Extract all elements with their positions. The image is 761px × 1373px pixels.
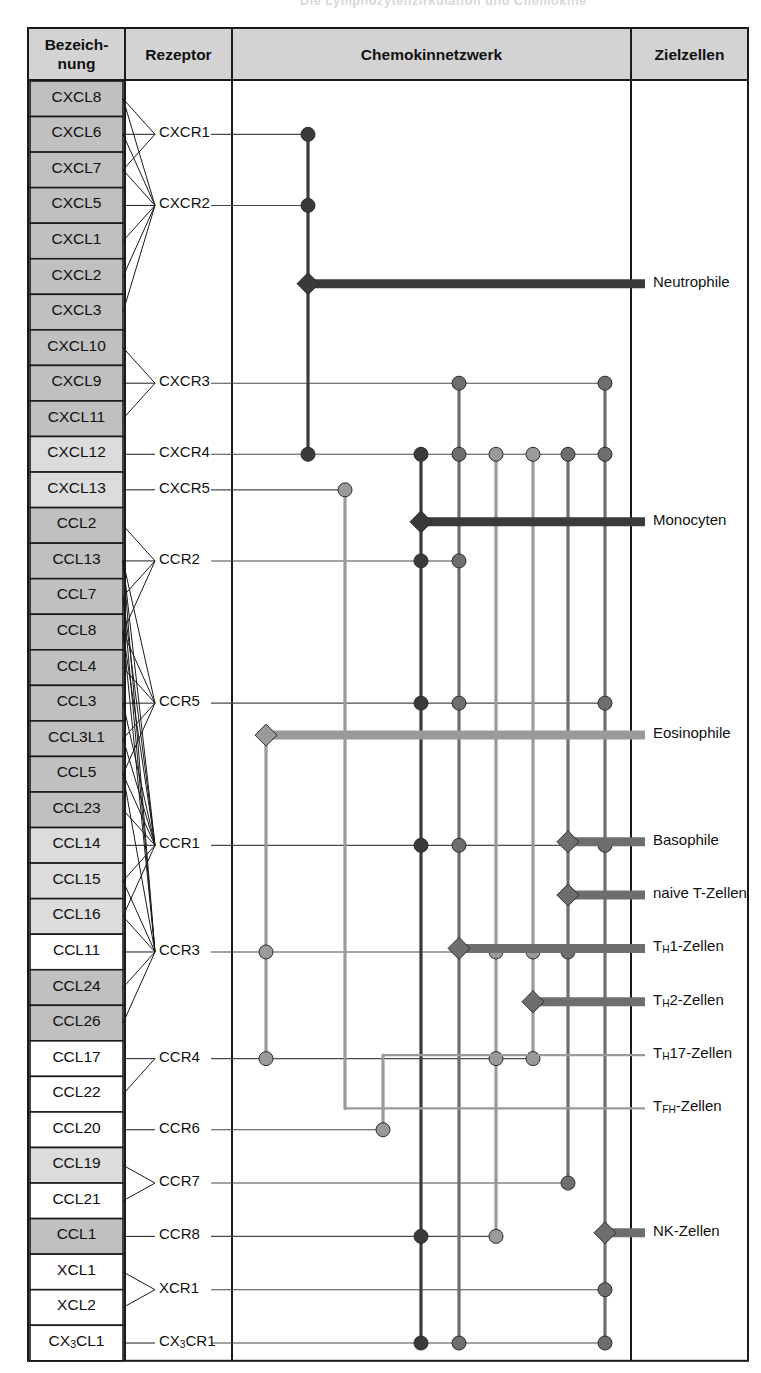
ligand-receptor-link	[123, 1165, 155, 1183]
receptor-label-CXCR2: CXCR2	[159, 194, 210, 211]
target-cell-label-TFH-Zellen: TFH-Zellen	[653, 1097, 722, 1115]
target-cell-label-naive T-Zellen: naive T-Zellen	[653, 884, 747, 901]
receptor-label-CXCR1: CXCR1	[159, 123, 210, 140]
network-node	[598, 447, 612, 461]
chemokine-label-CCL2: CCL2	[30, 514, 123, 532]
chemokine-network-figure: Die Lymphozytenzirkulation und Chemokine…	[0, 0, 761, 1373]
chemokine-label-CCL24: CCL24	[30, 977, 123, 995]
target-cell-hub-TH1-Zellen	[448, 937, 470, 959]
network-node	[301, 127, 315, 141]
receptor-label-CX3CR1: CX3CR1	[159, 1332, 216, 1350]
column-header-rezeptor: Rezeptor	[129, 45, 228, 64]
ligand-receptor-link	[123, 1183, 155, 1201]
target-cell-label-TH17-Zellen: TH17-Zellen	[653, 1044, 732, 1062]
ligand-receptor-link	[123, 134, 155, 205]
target-cell-label-TH1-Zellen: TH1-Zellen	[653, 937, 724, 955]
target-cell-hub-Monocyten	[410, 511, 432, 533]
network-node	[414, 696, 428, 710]
network-node	[338, 483, 352, 497]
receptor-label-CXCR5: CXCR5	[159, 479, 210, 496]
target-cell-hub-Eosinophile	[255, 724, 277, 746]
chemokine-label-CCL11: CCL11	[30, 941, 123, 959]
chemokine-label-CCL26: CCL26	[30, 1012, 123, 1030]
chemokine-label-CXCL10: CXCL10	[30, 337, 123, 355]
network-node	[452, 1336, 466, 1350]
ligand-receptor-link	[123, 1059, 155, 1095]
target-cell-hub-TH2-Zellen	[522, 991, 544, 1013]
target-cell-label-Monocyten: Monocyten	[653, 511, 726, 528]
chemokine-label-CCL3: CCL3	[30, 692, 123, 710]
chemokine-label-CCL23: CCL23	[30, 799, 123, 817]
chemokine-label-CCL7: CCL7	[30, 585, 123, 603]
receptor-label-CCR8: CCR8	[159, 1225, 200, 1242]
ligand-receptor-link	[123, 99, 155, 135]
ligand-receptor-link	[123, 205, 155, 312]
chemokine-label-CCL4: CCL4	[30, 657, 123, 675]
chemokine-label-CX3CL1: CX3CL1	[30, 1332, 123, 1350]
network-node	[489, 1052, 503, 1066]
target-cell-label-Basophile: Basophile	[653, 831, 719, 848]
network-node	[452, 447, 466, 461]
chemokine-label-CCL3L1: CCL3L1	[30, 728, 123, 746]
target-cell-label-Neutrophile: Neutrophile	[653, 273, 730, 290]
target-cell-hub-Basophile	[557, 831, 579, 853]
network-node	[414, 1336, 428, 1350]
chemokine-label-CCL21: CCL21	[30, 1190, 123, 1208]
target-cell-label-TH2-Zellen: TH2-Zellen	[653, 991, 724, 1009]
network-node	[452, 696, 466, 710]
network-node	[489, 1229, 503, 1243]
chemokine-label-CXCL5: CXCL5	[30, 194, 123, 212]
network-node	[561, 1176, 575, 1190]
chemokine-label-CCL22: CCL22	[30, 1083, 123, 1101]
network-node	[561, 447, 575, 461]
target-cell-label-NK-Zellen: NK-Zellen	[653, 1222, 720, 1239]
chemokine-label-CXCL2: CXCL2	[30, 266, 123, 284]
chemokine-label-CCL17: CCL17	[30, 1048, 123, 1066]
network-node	[414, 554, 428, 568]
ligand-receptor-link	[123, 205, 155, 276]
chemokine-label-CCL15: CCL15	[30, 870, 123, 888]
network-node	[301, 447, 315, 461]
chemokine-label-CCL16: CCL16	[30, 905, 123, 923]
network-node	[414, 1229, 428, 1243]
network-node	[526, 447, 540, 461]
chemokine-label-CCL14: CCL14	[30, 834, 123, 852]
ligand-receptor-link	[123, 561, 155, 597]
receptor-label-CCR2: CCR2	[159, 550, 200, 567]
network-node	[414, 447, 428, 461]
chemokine-label-XCL1: XCL1	[30, 1261, 123, 1279]
chemokine-label-CXCL11: CXCL11	[30, 408, 123, 426]
receptor-label-CCR4: CCR4	[159, 1048, 200, 1065]
receptor-label-CCR3: CCR3	[159, 941, 200, 958]
ligand-receptor-link	[123, 845, 155, 881]
target-cell-hub-naive T-Zellen	[557, 884, 579, 906]
ligand-receptor-link	[123, 916, 155, 952]
network-node	[489, 447, 503, 461]
network-node	[452, 376, 466, 390]
network-node	[452, 554, 466, 568]
receptor-label-CXCR4: CXCR4	[159, 443, 210, 460]
target-cell-label-Eosinophile: Eosinophile	[653, 724, 731, 741]
ligand-receptor-link	[123, 952, 155, 988]
network-node	[301, 198, 315, 212]
ligand-receptor-link	[123, 632, 155, 703]
column-header-bezeichnung: Bezeich-nung	[32, 35, 121, 73]
network-node	[414, 838, 428, 852]
network-node	[598, 1283, 612, 1297]
ligand-receptor-link	[123, 525, 155, 561]
ligand-receptor-link	[123, 1290, 155, 1308]
receptor-label-CCR6: CCR6	[159, 1119, 200, 1136]
ligand-receptor-link	[123, 703, 155, 774]
chemokine-label-CCL13: CCL13	[30, 550, 123, 568]
receptor-label-CXCR3: CXCR3	[159, 372, 210, 389]
chemokine-label-CCL8: CCL8	[30, 621, 123, 639]
chemokine-label-CCL1: CCL1	[30, 1225, 123, 1243]
target-cell-hub-NK-Zellen	[594, 1222, 616, 1244]
ligand-receptor-link	[123, 952, 155, 1023]
chemokine-label-CXCL7: CXCL7	[30, 159, 123, 177]
chemokine-label-CCL19: CCL19	[30, 1154, 123, 1172]
chemokine-label-CCL20: CCL20	[30, 1119, 123, 1137]
network-node	[598, 376, 612, 390]
ligand-receptor-link	[123, 348, 155, 384]
receptor-label-CCR7: CCR7	[159, 1172, 200, 1189]
